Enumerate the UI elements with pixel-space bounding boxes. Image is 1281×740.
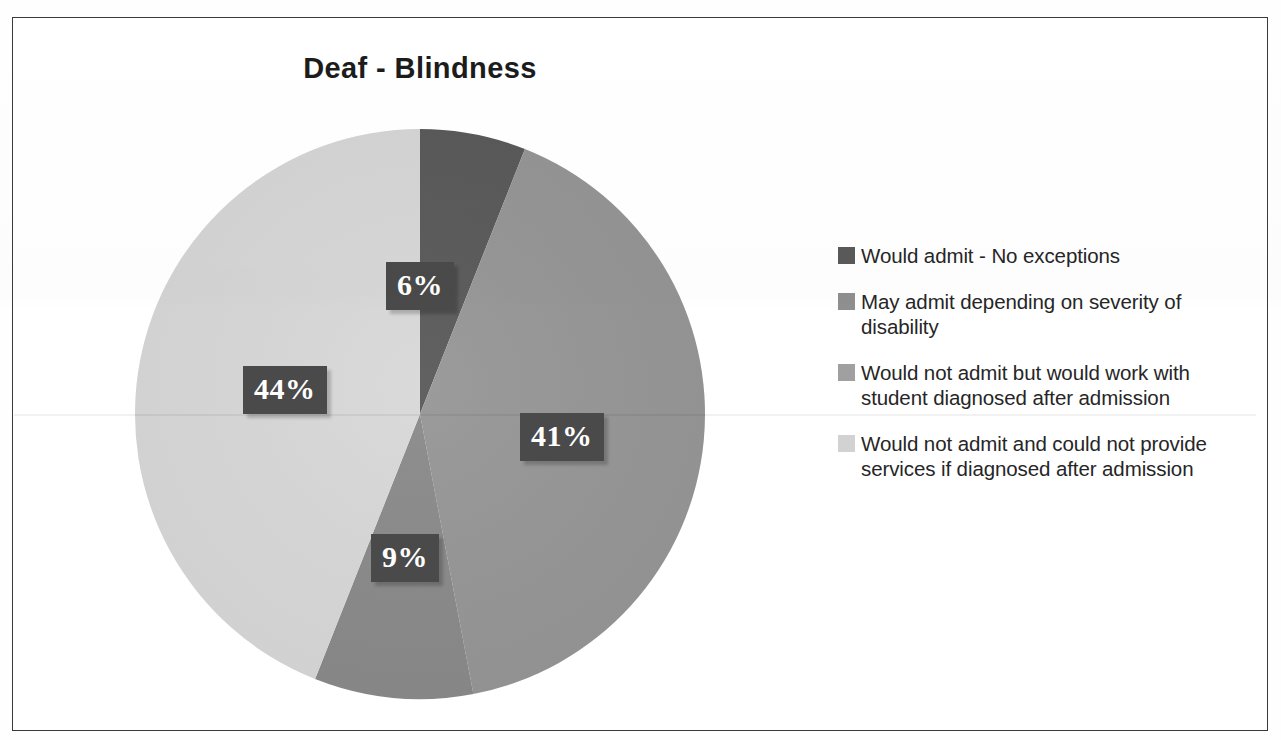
legend-item-would-admit-no-exceptions: Would admit - No exceptions (838, 243, 1218, 268)
legend-item-would-not-admit-and-could-not-provide: Would not admit and could not provide se… (838, 431, 1218, 481)
legend-item-label: Would not admit but would work with stud… (861, 360, 1218, 410)
page-title: Deaf - Blindness (0, 52, 840, 85)
pie-shading-overlay (135, 129, 705, 699)
legend-item-may-admit-depending-on-severity: May admit depending on severity of disab… (838, 289, 1218, 339)
chart-legend: Would admit - No exceptions May admit de… (838, 243, 1218, 502)
legend-item-label: Would admit - No exceptions (861, 243, 1120, 268)
pie-slice-value-label: 44% (243, 366, 327, 414)
pie-slice-value-label: 9% (371, 534, 439, 582)
pie-chart-svg (134, 128, 706, 700)
pie-slice-value-label: 41% (520, 413, 604, 461)
legend-swatch-icon (838, 435, 855, 452)
scanned-page: Deaf - Blindness 6% 41% 9% 44% Would adm… (0, 0, 1281, 740)
pie-chart (134, 128, 706, 700)
legend-item-label: May admit depending on severity of disab… (861, 289, 1218, 339)
legend-swatch-icon (838, 364, 855, 381)
legend-item-label: Would not admit and could not provide se… (861, 431, 1218, 481)
legend-swatch-icon (838, 247, 855, 264)
pie-slice-value-label: 6% (386, 262, 454, 310)
legend-swatch-icon (838, 293, 855, 310)
legend-item-would-not-admit-but-would-work: Would not admit but would work with stud… (838, 360, 1218, 410)
